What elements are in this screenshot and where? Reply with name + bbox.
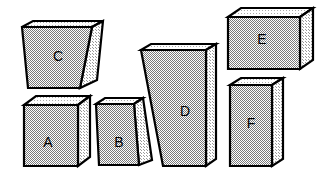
block-group-A[interactable]: A <box>24 96 90 166</box>
block-D-side-face <box>206 44 216 166</box>
block-A-side-face <box>78 96 90 166</box>
block-F-side-face <box>272 78 283 166</box>
block-group-F[interactable]: F <box>230 78 283 166</box>
block-D-label: D <box>180 103 190 119</box>
block-B-label: B <box>114 134 123 150</box>
block-E-label: E <box>257 31 266 47</box>
block-F-label: F <box>247 115 256 131</box>
block-group-D[interactable]: D <box>141 44 216 166</box>
block-A-label: A <box>43 134 53 150</box>
blocks-illustration: A B C D E <box>0 0 327 176</box>
block-group-E[interactable]: E <box>228 8 313 69</box>
block-group-B[interactable]: B <box>96 98 152 165</box>
block-C-label: C <box>53 48 63 64</box>
block-group-C[interactable]: C <box>22 21 103 88</box>
block-E-side-face <box>300 8 313 69</box>
blocks-figure: A B C D E <box>0 0 327 176</box>
